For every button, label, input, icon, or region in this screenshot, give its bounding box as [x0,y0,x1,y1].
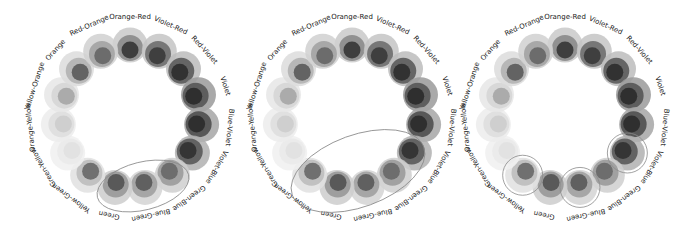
label-blue-violet: Blue-Violet [659,108,671,146]
label-orange-red: Orange-Red [544,13,586,21]
swatch-inner [557,42,574,59]
swatch-inner [58,88,75,105]
swatch-inner [161,163,178,180]
label-green: Green [533,209,555,221]
swatch-inner [122,42,139,59]
swatch-blue-green [562,170,597,205]
label-green: Green [320,209,342,221]
label-violet-red: Violet-Red [153,15,189,37]
label-orange-red: Orange-Red [109,13,151,21]
swatch-inner [344,42,361,59]
swatch-inner [493,88,510,105]
swatch-inner [584,47,601,64]
swatch-inner [94,47,111,64]
swatch-inner [383,163,400,180]
swatch-inner [277,116,294,133]
swatch-inner [171,64,188,81]
swatch-inner [188,116,205,133]
label-orange-red: Orange-Red [331,13,373,21]
swatch-violet [403,77,438,112]
swatch-inner [316,47,333,64]
swatch-inner [63,142,80,159]
swatch-orange-red [548,28,583,63]
swatch-violet [616,77,651,112]
label-blue-green: Blue-Green [353,207,393,223]
swatch-inner [294,64,311,81]
swatch-red-orange [518,34,553,69]
label-violet-red: Violet-Red [375,15,411,37]
swatch-inner [82,163,99,180]
swatch-inner [330,174,347,191]
swatch-orange-red [335,28,370,63]
swatch-inner [135,174,152,191]
swatch-blue-green [127,170,162,205]
swatch-inner [596,163,613,180]
swatch-inner [108,174,125,191]
swatch-inner [623,116,640,133]
swatch-inner [402,142,419,159]
swatch-inner [185,88,202,105]
swatch-inner [357,174,374,191]
swatch-inner [410,116,427,133]
swatch-inner [615,142,632,159]
swatch-inner [490,116,507,133]
swatch-inner [620,88,637,105]
label-violet: Violet [218,75,232,97]
swatch-red-orange [83,34,118,69]
label-blue-green: Blue-Green [566,207,606,223]
label-yellow-orange: Yellow-Orange [23,61,46,112]
color-wheel-triad: Orange-RedViolet-RedRed-VioletVioletBlue… [458,13,671,223]
swatch-inner [285,142,302,159]
color-wheels-canvas: Orange-RedViolet-RedRed-VioletVioletBlue… [0,0,692,226]
swatch-violet [181,77,216,112]
swatch-inner [529,47,546,64]
swatch-inner [371,47,388,64]
swatch-inner [280,88,297,105]
swatch-inner [55,116,72,133]
swatch-inner [393,64,410,81]
swatch-red-orange [305,34,340,69]
swatch-inner [180,142,197,159]
swatch-inner [72,64,89,81]
swatch-inner [543,174,560,191]
swatch-orange-red [113,28,148,63]
swatch-inner [498,142,515,159]
swatch-inner [407,88,424,105]
label-yellow-orange: Yellow-Orange [245,61,268,112]
swatch-inner [606,64,623,81]
label-blue-green: Blue-Green [131,207,171,223]
swatch-inner [570,174,587,191]
color-wheel-diagram: Orange-RedViolet-RedRed-VioletVioletBlue… [0,0,692,226]
label-blue-violet: Blue-Violet [224,108,236,146]
swatch-blue-green [349,170,384,205]
color-wheel-analogous-5: Orange-RedViolet-RedRed-VioletVioletBlue… [245,13,458,226]
swatch-orange-yellow [41,107,76,142]
swatch-inner [304,163,321,180]
label-violet-red: Violet-Red [588,15,624,37]
label-violet: Violet [653,75,667,97]
swatch-inner [507,64,524,81]
swatch-inner [517,163,534,180]
swatch-orange-yellow [263,107,298,142]
label-blue-violet: Blue-Violet [446,108,458,146]
swatch-inner [149,47,166,64]
swatch-orange-yellow [476,107,511,142]
label-yellow-orange: Yellow-Orange [458,61,481,112]
color-wheel-analogous-3: Orange-RedViolet-RedRed-VioletVioletBlue… [23,13,236,223]
label-violet: Violet [440,75,454,97]
